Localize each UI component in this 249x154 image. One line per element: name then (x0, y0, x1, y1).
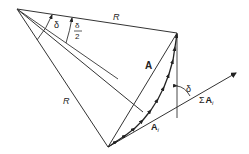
element-a-label: Ai (151, 122, 160, 133)
radius-top-line (17, 9, 177, 33)
radius-left-label: R (63, 96, 70, 106)
bisector-line (17, 9, 143, 112)
phasor-diagram: R R δ δ 2 A Ai δ ΣAi (0, 0, 249, 154)
angle-half-num-label: δ (75, 21, 80, 30)
sum-vector-label: ΣAi (199, 95, 214, 106)
angle-half-den-label: 2 (75, 32, 80, 41)
sum-vector-arrow (108, 73, 236, 147)
radius-left-line (17, 9, 108, 147)
half-angle-line (17, 9, 118, 79)
angle-delta-right-label: δ (186, 84, 191, 94)
radius-top-label: R (113, 12, 120, 22)
angle-delta-label: δ (54, 20, 59, 30)
chord-a-label: A (145, 60, 152, 71)
angle-half-delta-arc (66, 18, 72, 43)
chord-a-line (108, 33, 177, 147)
